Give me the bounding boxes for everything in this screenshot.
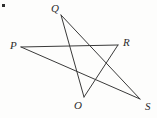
- segments-group: [21, 15, 140, 99]
- vertex-label-s: S: [145, 101, 151, 112]
- vertex-label-r: R: [123, 37, 130, 48]
- vertex-label-q: Q: [51, 3, 59, 14]
- geometry-figure: PQROS: [0, 0, 157, 118]
- vertex-label-o: O: [74, 100, 82, 111]
- segment-r-o: [84, 45, 118, 97]
- segment-p-s: [21, 47, 140, 99]
- vertex-label-p: P: [10, 40, 17, 51]
